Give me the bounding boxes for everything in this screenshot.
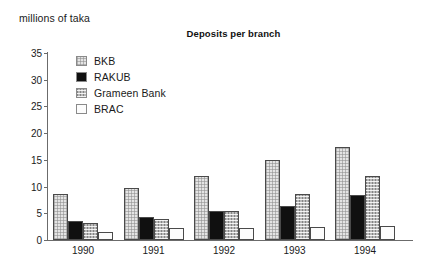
bar-grameen-bank-1992 [224,211,239,240]
bar-brac-1990 [98,232,113,240]
y-tick-label: 35 [31,48,42,59]
legend-label: RAKUB [94,71,131,83]
bar-bkb-1990 [53,194,68,240]
bar-bkb-1994 [335,147,350,241]
y-tick-label: 20 [31,128,42,139]
legend-item-brac: BRAC [76,102,166,115]
legend: BKBRAKUBGrameen BankBRAC [76,54,166,115]
y-tick-mark [44,106,47,107]
legend-swatch-white-empty [76,104,87,114]
bar-rakub-1993 [280,206,295,240]
legend-label: BRAC [94,103,124,115]
y-tick-label: 30 [31,74,42,85]
bar-grameen-bank-1993 [295,194,310,240]
y-tick-mark [44,133,47,134]
x-tick-label: 1991 [142,245,164,256]
legend-label: Grameen Bank [94,87,166,99]
deposits-per-branch-chart: millions of taka Deposits per branch 051… [0,0,431,271]
legend-swatch-light-gray-dotted [76,56,87,66]
chart-title: Deposits per branch [0,28,431,39]
bar-brac-1993 [310,227,325,240]
y-tick-mark [44,187,47,188]
y-axis-line [47,52,48,241]
legend-item-bkb: BKB [76,54,166,67]
legend-swatch-medium-gray-checked [76,88,87,98]
x-tick-label: 1994 [354,245,376,256]
bar-bkb-1992 [194,176,209,240]
y-axis-unit-label: millions of taka [19,12,90,24]
bar-rakub-1990 [68,221,83,240]
x-tick-label: 1993 [283,245,305,256]
y-tick-label: 10 [31,181,42,192]
y-tick-label: 15 [31,154,42,165]
x-axis-line [47,240,413,241]
bar-bkb-1993 [265,160,280,240]
y-tick-label: 0 [36,235,42,246]
y-tick-mark [44,80,47,81]
legend-item-rakub: RAKUB [76,70,166,83]
legend-item-grameen-bank: Grameen Bank [76,86,166,99]
bar-rakub-1994 [350,195,365,240]
y-tick-label: 5 [36,208,42,219]
x-tick-label: 1992 [213,245,235,256]
bar-rakub-1991 [139,217,154,240]
y-tick-mark [44,240,47,241]
y-tick-mark [44,213,47,214]
bar-brac-1994 [380,226,395,240]
bar-bkb-1991 [124,188,139,240]
legend-swatch-solid-black [76,72,87,82]
bar-brac-1992 [239,228,254,240]
bar-rakub-1992 [209,211,224,240]
y-tick-mark [44,160,47,161]
legend-label: BKB [94,55,115,67]
bar-grameen-bank-1994 [365,176,380,240]
y-tick-mark [44,53,47,54]
x-tick-label: 1990 [72,245,94,256]
y-tick-label: 25 [31,101,42,112]
bar-grameen-bank-1990 [83,223,98,240]
bar-brac-1991 [169,228,184,240]
bar-grameen-bank-1991 [154,219,169,240]
